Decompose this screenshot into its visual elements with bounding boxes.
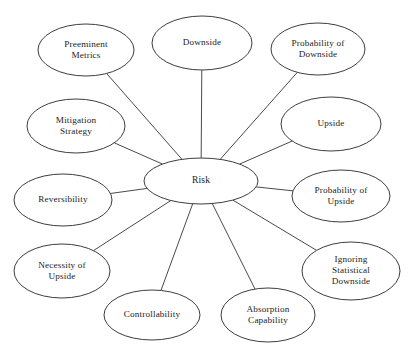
node-label-preeminent-metrics-line-1: Preeminent: [64, 39, 108, 49]
node-label-upside-line-1: Upside: [318, 118, 345, 128]
spoke-risk-to-absorption-capability: [212, 204, 255, 289]
node-label-probability-of-downside-line-2: Downside: [299, 49, 337, 59]
node-label-ignoring-statistical-downside-line-1: Ignoring: [335, 254, 368, 264]
node-preeminent-metrics[interactable]: PreeminentMetrics: [38, 24, 134, 76]
node-label-necessity-of-upside-line-2: Upside: [49, 271, 76, 281]
node-label-probability-of-upside-line-1: Probability of: [315, 185, 369, 195]
node-label-necessity-of-upside-line-1: Necessity of: [38, 260, 86, 270]
node-label-ignoring-statistical-downside-line-2: Statistical: [332, 265, 370, 275]
node-controllability[interactable]: Controllability: [104, 290, 200, 340]
center-node-risk[interactable]: Risk: [144, 158, 258, 204]
node-probability-of-upside[interactable]: Probability ofUpside: [292, 170, 390, 222]
node-downside[interactable]: Downside: [152, 16, 252, 70]
node-label-downside-line-1: Downside: [183, 37, 221, 47]
node-absorption-capability[interactable]: AbsorptionCapability: [221, 288, 315, 342]
node-label-ignoring-statistical-downside-line-3: Downside: [332, 276, 370, 286]
node-label-mitigation-strategy-line-2: Strategy: [60, 126, 92, 136]
risk-mind-map-diagram: PreeminentMetricsDownsideProbability ofD…: [0, 0, 410, 354]
spoke-risk-to-downside: [201, 70, 202, 158]
node-label-preeminent-metrics-line-2: Metrics: [71, 50, 100, 60]
node-upside[interactable]: Upside: [281, 97, 381, 151]
spoke-risk-to-upside: [240, 141, 293, 164]
node-label-controllability-line-1: Controllability: [124, 309, 181, 319]
center-node-layer: Risk: [144, 158, 258, 204]
node-reversibility[interactable]: Reversibility: [14, 174, 112, 226]
node-label-absorption-capability-line-1: Absorption: [247, 304, 290, 314]
center-node-label-line-1: Risk: [192, 174, 210, 185]
spoke-risk-to-mitigation-strategy: [114, 143, 162, 164]
node-necessity-of-upside[interactable]: Necessity ofUpside: [14, 244, 110, 298]
spoke-risk-to-reversibility: [110, 188, 147, 193]
node-ignoring-statistical-downside[interactable]: IgnoringStatisticalDownside: [302, 242, 400, 300]
node-label-absorption-capability-line-2: Capability: [248, 315, 288, 325]
node-label-probability-of-upside-line-2: Upside: [328, 196, 355, 206]
node-probability-of-downside[interactable]: Probability ofDownside: [271, 23, 365, 75]
node-label-mitigation-strategy-line-1: Mitigation: [56, 115, 97, 125]
spoke-risk-to-probability-of-upside: [256, 187, 293, 191]
node-label-probability-of-downside-line-1: Probability of: [292, 38, 346, 48]
node-mitigation-strategy[interactable]: MitigationStrategy: [27, 99, 125, 153]
spoke-risk-to-controllability: [161, 204, 193, 291]
mind-map-canvas: PreeminentMetricsDownsideProbability ofD…: [0, 0, 410, 354]
node-label-reversibility-line-1: Reversibility: [38, 194, 88, 204]
